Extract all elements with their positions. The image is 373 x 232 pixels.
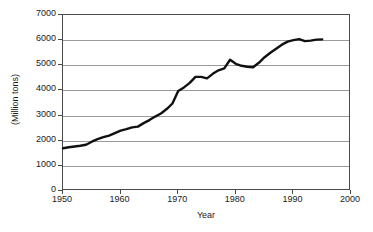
x-axis-tick-label: 1980 (215, 194, 255, 204)
plot-area (62, 14, 350, 190)
x-axis-tick-mark (292, 190, 293, 194)
y-axis-title: (Million tons) (10, 40, 21, 160)
x-axis-tick-mark (177, 190, 178, 194)
y-axis-tick-label: 1000 (4, 160, 56, 169)
x-axis-tick-mark (235, 190, 236, 194)
x-axis-tick-label: 2000 (330, 194, 370, 204)
x-axis-tick-mark (62, 190, 63, 194)
y-axis-tick-mark (58, 64, 62, 65)
y-axis-tick-mark (58, 190, 62, 191)
y-axis-tick-mark (58, 165, 62, 166)
series-line-production (63, 39, 322, 148)
x-axis-tick-label: 1950 (42, 194, 82, 204)
x-axis-tick-label: 1960 (100, 194, 140, 204)
y-axis-tick-mark (58, 140, 62, 141)
x-axis-tick-mark (350, 190, 351, 194)
x-axis-tick-label: 1970 (157, 194, 197, 204)
line-chart: 01000200030004000500060007000 1950196019… (0, 0, 373, 232)
y-axis-tick-mark (58, 14, 62, 15)
y-axis-tick-mark (58, 115, 62, 116)
y-axis-tick-label: 7000 (4, 9, 56, 18)
y-axis-tick-mark (58, 89, 62, 90)
y-axis-tick-mark (58, 39, 62, 40)
y-axis-title-wrapper: (Million tons) (0, 0, 1, 1)
y-axis-tick-label: 0 (4, 185, 56, 194)
x-axis-tick-label: 1990 (272, 194, 312, 204)
x-axis-tick-mark (120, 190, 121, 194)
data-series-svg (63, 15, 351, 191)
x-axis-title: Year (62, 210, 350, 221)
